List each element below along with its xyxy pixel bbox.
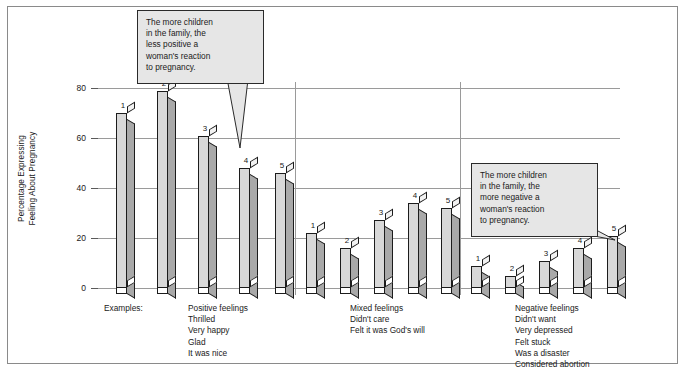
- callout-right-line2: in the family, the: [480, 181, 540, 191]
- bar-front-base: [408, 288, 419, 294]
- bar-front: [505, 276, 516, 288]
- ytick-label-60: 60: [64, 134, 86, 143]
- callout-right-line1: The more children: [480, 170, 547, 180]
- bar-side: [385, 226, 393, 299]
- bar-front: [340, 248, 351, 288]
- bar-front-base: [505, 288, 516, 294]
- y-axis-label: Percentage Expressing Feeling About Preg…: [17, 115, 38, 243]
- callout-left-line3: less positive a: [146, 39, 198, 49]
- bar-front: [116, 113, 127, 288]
- bar-front: [239, 168, 250, 288]
- bar-number-g2-5: 5: [438, 196, 458, 205]
- ytick-label-80: 80: [64, 84, 86, 93]
- bar-number-g2-3: 3: [371, 208, 391, 217]
- callout-right-line3: more negative a: [480, 192, 540, 202]
- bar-front-base: [573, 288, 584, 294]
- plot-area: 80 60 40 20 0 Percentage Expressing Feel…: [0, 0, 686, 371]
- bar-number-g3-1: 1: [468, 254, 488, 263]
- bar-front-base: [306, 288, 317, 294]
- ytick-mark-60: [91, 138, 98, 139]
- bar-front-base: [441, 288, 452, 294]
- ytick-mark-80: [91, 88, 98, 89]
- ytick-mark-0: [91, 288, 98, 289]
- bar-number-g3-2: 2: [502, 264, 522, 273]
- bar-number-g2-4: 4: [405, 191, 425, 200]
- bar-front: [374, 220, 385, 288]
- y-axis-label-line1: Percentage Expressing: [17, 135, 26, 222]
- bar-side: [127, 119, 135, 299]
- callout-left: The more children in the family, the les…: [137, 10, 264, 84]
- bar-front: [471, 266, 482, 288]
- bar-front-base: [340, 288, 351, 294]
- bar-front: [275, 173, 286, 288]
- ytick-label-20: 20: [64, 234, 86, 243]
- category-label-mixed: Mixed feelings Didn't care Felt it was G…: [350, 303, 425, 337]
- bar-front: [306, 233, 317, 288]
- y-axis-label-line2: Feeling About Pregnancy: [27, 132, 36, 226]
- bar-front-base: [374, 288, 385, 294]
- bar-number-g1-1: 1: [113, 101, 133, 110]
- ytick-mark-40: [91, 188, 98, 189]
- gridline-80: [98, 88, 620, 89]
- bar-front-base: [239, 288, 250, 294]
- callout-right-line5: to pregnancy.: [480, 215, 530, 225]
- bar-front-base: [157, 288, 168, 294]
- chart-figure: 80 60 40 20 0 Percentage Expressing Feel…: [0, 0, 686, 371]
- bar-front-base: [198, 288, 209, 294]
- gridline-60: [98, 138, 620, 139]
- callout-right: The more children in the family, the mor…: [471, 163, 598, 237]
- examples-label: Examples:: [104, 303, 143, 314]
- callout-left-line2: in the family, the: [146, 28, 206, 38]
- bar-front: [441, 208, 452, 288]
- bar-front-base: [471, 288, 482, 294]
- ytick-label-40: 40: [64, 184, 86, 193]
- bar-side: [317, 239, 325, 299]
- ytick-label-0: 0: [64, 284, 86, 293]
- group-separator-2: [460, 82, 461, 295]
- callout-left-line1: The more children: [146, 17, 213, 27]
- bar-front-base: [539, 288, 550, 294]
- ytick-mark-20: [91, 238, 98, 239]
- bar-number-g2-2: 2: [337, 236, 357, 245]
- callout-left-line4: woman's reaction: [146, 51, 210, 61]
- bar-front-base: [607, 288, 618, 294]
- bar-front: [157, 91, 168, 288]
- callout-right-line4: woman's reaction: [480, 204, 544, 214]
- bar-front-base: [275, 288, 286, 294]
- bar-front-base: [116, 288, 127, 294]
- category-label-positive: Positive feelings Thrilled Very happy Gl…: [188, 303, 248, 359]
- bar-side: [168, 97, 176, 299]
- category-label-negative: Negative feelings Didn't want Very depre…: [515, 303, 590, 370]
- bar-front: [408, 203, 419, 288]
- bar-number-g2-1: 1: [303, 221, 323, 230]
- callout-left-line5: to pregnancy.: [146, 62, 196, 72]
